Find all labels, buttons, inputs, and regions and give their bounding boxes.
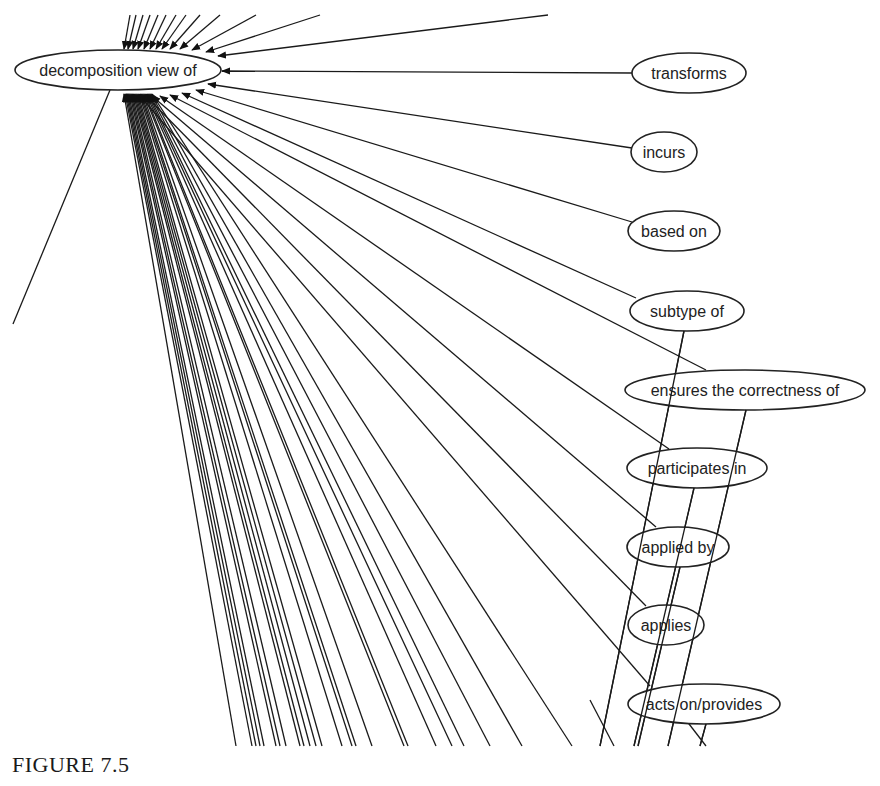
edge-arrow-to-center <box>144 94 404 746</box>
edge-arrow-to-center <box>152 94 572 746</box>
node-incurs: incurs <box>631 132 697 172</box>
edge-based_on-to-center <box>196 90 632 222</box>
edge-applies-to-center <box>146 96 646 606</box>
node-label: transforms <box>651 65 727 82</box>
edge-arrow-to-center <box>133 94 300 746</box>
node-subtype-of: subtype of <box>630 291 744 331</box>
edge-arrow-to-center <box>132 94 286 746</box>
edge-arrow-to-center <box>126 94 256 746</box>
edge-arrow-to-center <box>142 94 357 746</box>
edge-arrow-to-center <box>192 15 256 50</box>
edge-arrow-to-center <box>218 15 548 56</box>
edge-transforms-to-center <box>222 71 632 73</box>
node-decomposition-view-of: decomposition view of <box>15 50 221 90</box>
node-label: decomposition view of <box>39 62 197 79</box>
node-participates-in: participates in <box>627 448 767 488</box>
node-label: acts on/provides <box>646 696 763 713</box>
node-label: ensures the correctness of <box>651 382 840 399</box>
edge-arrow-to-center <box>138 15 150 49</box>
edge-arrow-to-center <box>145 94 408 746</box>
node-label: based on <box>641 223 707 240</box>
edge-arrow-to-center <box>150 15 166 49</box>
edge-arrow-to-center <box>125 94 252 746</box>
edge-arrow-to-center <box>130 94 276 746</box>
edge-arrow-to-center <box>180 15 220 49</box>
node-label: subtype of <box>650 303 724 320</box>
node-transforms: transforms <box>632 53 746 93</box>
edge-arrow-to-center <box>151 94 522 746</box>
edge-arrow-to-center <box>147 94 452 746</box>
graph-diagram: decomposition view oftransformsincursbas… <box>0 0 880 750</box>
edge-acts_on_provides-to-center <box>140 96 650 686</box>
edge-participates_in-to-center <box>160 96 669 449</box>
node-based-on: based on <box>628 211 720 251</box>
edge-outgoing-left <box>13 90 110 324</box>
edge-arrow-to-center <box>138 94 322 746</box>
figure-caption: FIGURE 7.5 <box>12 752 129 778</box>
node-ensures: ensures the correctness of <box>625 370 865 410</box>
node-label: incurs <box>643 144 686 161</box>
edge-arrow-to-center <box>137 94 316 746</box>
edge-incurs-to-center <box>208 84 632 148</box>
edge-arrow-to-center <box>144 15 158 49</box>
edge-arrow-to-center <box>146 94 436 746</box>
node-label: applied by <box>642 539 715 556</box>
